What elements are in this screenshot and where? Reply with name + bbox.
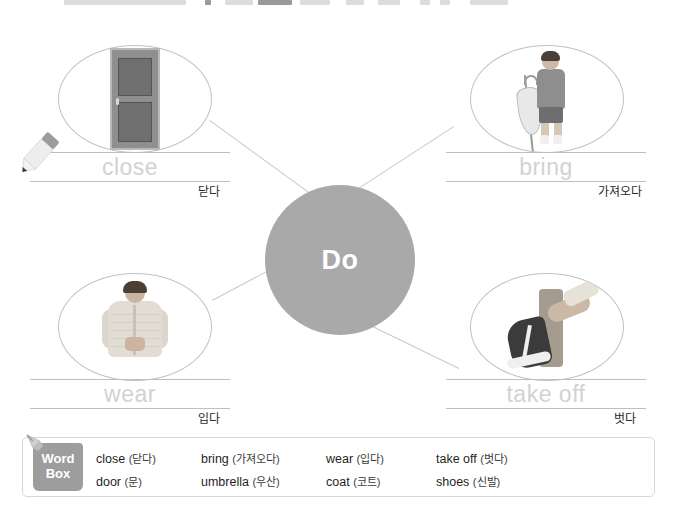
- word-box-row: door (문) umbrella (우산) coat (코트) shoes (…: [96, 469, 641, 492]
- pencil-icon: [10, 128, 74, 184]
- answer-line-wear[interactable]: wear: [30, 379, 230, 409]
- pushpin-icon: [24, 432, 50, 458]
- word-en: close: [96, 452, 125, 466]
- coat-photo: [92, 283, 178, 371]
- word-box-row: close (닫다) bring (가져오다) wear (입다) take o…: [96, 446, 641, 469]
- image-frame-coat: [58, 273, 212, 381]
- word-ko: (문): [125, 476, 142, 488]
- word-box-item: close (닫다): [96, 450, 201, 466]
- word-en: shoes: [436, 475, 469, 489]
- word-en: take off: [436, 452, 477, 466]
- korean-label-take-off: 벗다: [614, 409, 636, 426]
- word-box-item: wear (입다): [326, 450, 436, 466]
- image-frame-shoes: [470, 273, 624, 381]
- word-box-item: bring (가져오다): [201, 450, 326, 466]
- word-box-word-grid: close (닫다) bring (가져오다) wear (입다) take o…: [96, 446, 641, 492]
- image-frame-umbrella: [470, 45, 624, 153]
- word-ko: (입다): [357, 453, 384, 465]
- door-photo: [110, 48, 160, 150]
- word-ko: (닫다): [129, 453, 156, 465]
- answer-ghost-wear: wear: [30, 381, 230, 408]
- center-node-do: Do: [265, 185, 415, 335]
- cut-off-header-strip: [0, 0, 675, 7]
- word-box-tab-line2: Box: [46, 467, 71, 482]
- word-en: door: [96, 475, 121, 489]
- shoes-photo: [497, 281, 597, 373]
- korean-label-wear: 입다: [198, 409, 220, 426]
- answer-line-take-off[interactable]: take off: [446, 379, 646, 409]
- word-box-item: coat (코트): [326, 473, 436, 489]
- word-en: wear: [326, 452, 353, 466]
- korean-label-bring: 가져오다: [598, 182, 642, 199]
- word-box-item: umbrella (우산): [201, 473, 326, 489]
- word-ko: (가져오다): [232, 453, 279, 465]
- connector-line-bring: [346, 126, 454, 197]
- worksheet-page: Do close 닫다: [0, 0, 675, 511]
- word-en: umbrella: [201, 475, 249, 489]
- word-en: coat: [326, 475, 350, 489]
- word-ko: (신발): [473, 476, 500, 488]
- answer-ghost-bring: bring: [446, 154, 646, 181]
- word-ko: (우산): [252, 476, 279, 488]
- answer-line-bring[interactable]: bring: [446, 152, 646, 182]
- word-ko: (코트): [353, 476, 380, 488]
- word-box-item: take off (벗다): [436, 450, 508, 466]
- word-box-item: shoes (신발): [436, 473, 500, 489]
- umbrella-photo: [516, 51, 578, 147]
- image-frame-door: [58, 45, 212, 153]
- korean-label-close: 닫다: [198, 182, 220, 199]
- word-ko: (벗다): [480, 453, 507, 465]
- word-en: bring: [201, 452, 229, 466]
- word-box-item: door (문): [96, 473, 201, 489]
- center-node-label: Do: [322, 245, 359, 276]
- answer-ghost-take-off: take off: [446, 381, 646, 408]
